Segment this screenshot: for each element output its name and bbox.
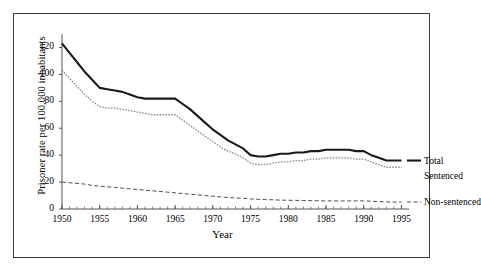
x-tick-label: 1995 (384, 215, 418, 225)
series-line-non-sentenced (62, 182, 401, 202)
data-series-group (62, 43, 401, 202)
legend-label-total: Total (424, 156, 443, 166)
x-tick-label: 1955 (83, 215, 117, 225)
chart-plot-area: 020406080100120 195019551960196519701975… (14, 14, 431, 259)
legend-sample-lines (407, 161, 421, 202)
series-line-sentenced (62, 70, 401, 167)
x-axis-title: Year (14, 228, 431, 240)
x-tick-label: 1965 (158, 215, 192, 225)
legend-label-sentenced: Sentenced (424, 171, 463, 181)
y-axis-title: Prisoner rate per 100,000 inhabitants (36, 21, 47, 211)
x-tick-label: 1985 (309, 215, 343, 225)
x-axis-major-ticks (62, 205, 401, 209)
x-tick-label: 1990 (347, 215, 381, 225)
x-tick-label: 1960 (120, 215, 154, 225)
figure-frame: 020406080100120 195019551960196519701975… (13, 13, 430, 258)
x-tick-label: 1950 (45, 215, 79, 225)
x-tick-label: 1975 (234, 215, 268, 225)
x-tick-label: 1980 (271, 215, 305, 225)
legend-label-non-sentenced: Non-sentenced (424, 197, 481, 207)
series-line-total (62, 43, 401, 160)
x-tick-label: 1970 (196, 215, 230, 225)
